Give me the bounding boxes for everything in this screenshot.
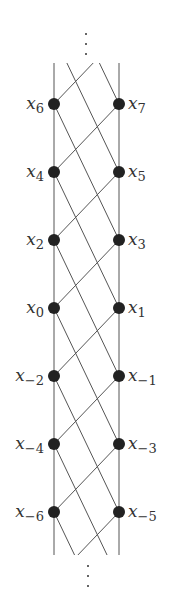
- node-left: [48, 370, 60, 382]
- node-right: [113, 370, 125, 382]
- node-left: [48, 234, 60, 246]
- node-right: [113, 438, 125, 450]
- node-label: x−5: [128, 501, 157, 524]
- node-label: x7: [128, 93, 146, 116]
- node-right: [113, 166, 125, 178]
- node-right: [113, 98, 125, 110]
- node-label: x3: [128, 229, 146, 252]
- ellipsis-dot: [85, 53, 87, 55]
- node-left: [48, 506, 60, 518]
- node-label: x−6: [15, 501, 44, 524]
- node-left: [48, 438, 60, 450]
- node-label: x0: [26, 297, 44, 320]
- node-left: [48, 98, 60, 110]
- node-label: x−4: [15, 433, 44, 456]
- lattice-diagram: x6x4x2x0x−2x−4x−6x7x5x3x1x−1x−3x−5: [0, 0, 171, 609]
- node-label: x−2: [15, 365, 44, 388]
- node-right: [113, 506, 125, 518]
- node-label: x−3: [128, 433, 157, 456]
- ellipsis-dot: [87, 565, 89, 567]
- ellipsis-dot: [85, 43, 87, 45]
- node-label: x5: [128, 161, 146, 184]
- node-label: x2: [26, 229, 44, 252]
- ellipsis-dot: [87, 585, 89, 587]
- ellipsis-dot: [87, 575, 89, 577]
- node-label: x6: [26, 93, 44, 116]
- node-label: x1: [128, 297, 146, 320]
- node-right: [113, 234, 125, 246]
- node-right: [113, 302, 125, 314]
- node-left: [48, 166, 60, 178]
- node-left: [48, 302, 60, 314]
- node-label: x4: [26, 161, 44, 184]
- node-label: x−1: [128, 365, 157, 388]
- ellipsis-dot: [85, 33, 87, 35]
